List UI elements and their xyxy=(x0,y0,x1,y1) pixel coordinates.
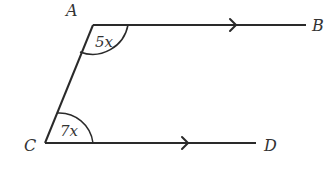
angle-label-c: 7x xyxy=(60,122,79,140)
point-label-d: D xyxy=(263,136,277,155)
angle-label-a: 5x xyxy=(95,33,114,51)
point-label-a: A xyxy=(64,1,78,20)
point-label-c: C xyxy=(24,136,36,155)
point-label-b: B xyxy=(311,16,324,35)
parallel-lines-diagram: A B C D 5x 7x xyxy=(0,0,328,172)
